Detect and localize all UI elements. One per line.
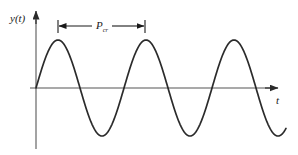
waveform-canvas: y(t) t Pcr bbox=[0, 0, 298, 155]
y-axis-label: y(t) bbox=[9, 12, 26, 25]
waveform-figure: y(t) t Pcr bbox=[0, 0, 298, 155]
period-subscript: cr bbox=[103, 26, 109, 33]
x-axis-label: t bbox=[276, 94, 280, 106]
period-label: Pcr bbox=[95, 19, 109, 33]
